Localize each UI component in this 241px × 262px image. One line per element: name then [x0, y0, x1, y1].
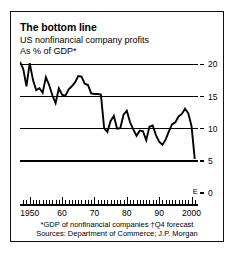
x-tick-1957 — [52, 200, 53, 204]
x-tick-1978 — [120, 200, 121, 204]
x-tick-1980 — [127, 197, 128, 204]
x-axis-label: 90 — [154, 208, 163, 218]
y-axis-label: 0 — [208, 188, 213, 198]
x-axis-label: 80 — [122, 208, 131, 218]
x-tick-1987 — [149, 200, 150, 204]
y-tick-15 — [200, 96, 204, 97]
x-tick-1953 — [39, 200, 40, 204]
x-tick-1986 — [146, 200, 147, 204]
x-tick-1993 — [169, 200, 170, 204]
forecast-marker-label: E — [193, 187, 198, 196]
x-tick-1979 — [124, 200, 125, 204]
x-tick-1958 — [56, 200, 57, 204]
x-tick-1988 — [153, 200, 154, 204]
x-tick-1968 — [88, 200, 89, 204]
x-tick-1965 — [78, 200, 79, 204]
x-tick-1997 — [182, 200, 183, 204]
x-tick-2000 — [192, 197, 193, 204]
y-tick-0 — [200, 192, 204, 193]
x-tick-1969 — [91, 200, 92, 204]
x-tick-1998 — [185, 200, 186, 204]
y-axis-label: 10 — [208, 124, 217, 134]
x-tick-1975 — [111, 200, 112, 204]
chart-subtitle-line1: US nonfinancial company profits — [20, 35, 149, 45]
x-tick-2001 — [195, 200, 196, 204]
x-tick-1948 — [23, 200, 24, 204]
x-tick-1960 — [62, 197, 63, 204]
x-tick-1961 — [65, 200, 66, 204]
footnote-sources: Sources: Department of Commerce; J.P. Mo… — [11, 229, 223, 238]
x-tick-1967 — [85, 200, 86, 204]
chart-title: The bottom line — [20, 21, 97, 33]
x-tick-1992 — [166, 200, 167, 204]
data-line-series — [20, 58, 198, 193]
x-axis-label: 60 — [57, 208, 66, 218]
y-axis-label: 5 — [208, 156, 213, 166]
x-tick-1999 — [188, 200, 189, 204]
x-tick-1950 — [30, 197, 31, 204]
x-axis-label: 70 — [90, 208, 99, 218]
y-tick-5 — [200, 160, 204, 161]
x-tick-1951 — [33, 200, 34, 204]
x-tick-1971 — [98, 200, 99, 204]
y-tick-20 — [200, 64, 204, 65]
x-tick-1952 — [36, 200, 37, 204]
x-tick-1994 — [172, 200, 173, 204]
x-tick-1963 — [72, 200, 73, 204]
x-tick-1990 — [159, 197, 160, 204]
x-tick-1973 — [104, 200, 105, 204]
x-tick-1995 — [175, 200, 176, 204]
footnote-methodology: *GDP of nonfinancial companies †Q4 forec… — [11, 220, 223, 229]
chart-figure: The bottom line US nonfinancial company … — [10, 11, 224, 242]
x-axis-label: 2000 — [182, 208, 201, 218]
x-tick-1966 — [81, 200, 82, 204]
chart-subtitle-line2: As % of GDP* — [20, 46, 77, 56]
x-tick-1985 — [143, 200, 144, 204]
chart-inner: The bottom line US nonfinancial company … — [11, 12, 223, 241]
x-tick-1974 — [107, 200, 108, 204]
x-tick-1955 — [46, 200, 47, 204]
x-axis — [20, 193, 198, 207]
x-tick-1983 — [137, 200, 138, 204]
x-tick-1954 — [43, 200, 44, 204]
x-tick-1989 — [156, 200, 157, 204]
x-tick-1964 — [75, 200, 76, 204]
x-tick-1949 — [26, 200, 27, 204]
y-tick-10 — [200, 128, 204, 129]
x-tick-1981 — [130, 200, 131, 204]
x-tick-1956 — [49, 200, 50, 204]
y-axis-label: 20 — [208, 59, 217, 69]
x-tick-1982 — [133, 200, 134, 204]
x-axis-line — [20, 204, 198, 206]
plot-area — [20, 58, 198, 193]
x-tick-1970 — [94, 197, 95, 204]
x-tick-1962 — [69, 200, 70, 204]
x-tick-1959 — [59, 200, 60, 204]
x-tick-1977 — [117, 200, 118, 204]
x-tick-1972 — [101, 200, 102, 204]
y-axis-label: 15 — [208, 92, 217, 102]
x-tick-1996 — [179, 200, 180, 204]
x-tick-1976 — [114, 200, 115, 204]
x-tick-1984 — [140, 200, 141, 204]
x-axis-label: 1950 — [20, 208, 39, 218]
x-tick-1991 — [162, 200, 163, 204]
